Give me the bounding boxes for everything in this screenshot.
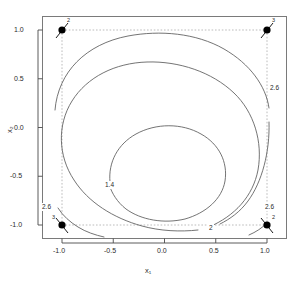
contour-label-2: 2	[208, 224, 214, 232]
contour-2.6-right-lower	[220, 122, 269, 224]
marker-dot-top-right	[263, 26, 270, 33]
marker-top-left	[56, 23, 68, 38]
marker-dot-top-left	[58, 26, 65, 33]
contour-label-2.6-bottom-right: 2.6	[264, 203, 275, 211]
contour-plot-figure: 1.0 0.5 0.0 -0.5 -1.0 -1.0 -0.5 0.0 0.5 …	[0, 0, 305, 285]
contour-2.6-bottom-left	[58, 208, 104, 237]
ytick-label-5: -1.0	[10, 221, 22, 228]
point-label-bottom-right: 2	[272, 214, 275, 220]
marker-bottom-right	[261, 218, 273, 233]
contour-2-main	[61, 62, 259, 231]
point-label-top-left: 2	[67, 17, 70, 23]
xtick-label-3: 0.0	[157, 247, 167, 254]
marker-bottom-left	[56, 218, 68, 233]
marker-dot-bottom-right	[263, 221, 270, 228]
contour-1.4-main	[110, 126, 226, 221]
optimum-markers	[56, 23, 273, 233]
ytick-label-1: 1.0	[14, 26, 24, 33]
point-label-bottom-left: 3	[52, 214, 55, 220]
plot-frame	[43, 17, 287, 239]
point-label-top-right: 3	[272, 17, 275, 23]
contour-2.6-main	[55, 33, 269, 110]
marker-dot-bottom-left	[58, 221, 65, 228]
ytick-label-4: -0.5	[10, 172, 22, 179]
y-axis-title: x₂	[5, 126, 14, 133]
xtick-label-2: -0.5	[104, 247, 116, 254]
ytick-label-2: 0.5	[14, 75, 24, 82]
contour-label-2.6-right: 2.6	[269, 84, 280, 92]
ytick-label-3: 0.0	[14, 124, 24, 131]
x-axis-title: x₁	[145, 266, 151, 275]
guide-lines	[62, 30, 267, 225]
contour-label-2.6-bottom-left: 2.6	[41, 203, 52, 211]
marker-top-right	[261, 23, 273, 38]
xtick-label-1: -1.0	[53, 247, 65, 254]
xtick-label-5: 1.0	[260, 247, 270, 254]
contour-curves	[55, 33, 269, 237]
contour-label-1.4: 1.4	[104, 181, 115, 189]
xtick-label-4: 0.5	[209, 247, 219, 254]
plot-canvas	[0, 0, 305, 285]
